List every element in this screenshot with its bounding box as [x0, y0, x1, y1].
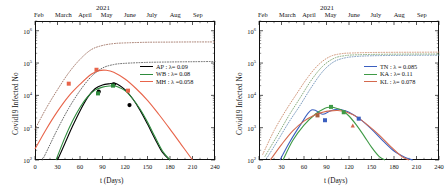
y-tick-label-1e6: 106 [233, 27, 256, 35]
x-tick-label-90: 90 [317, 163, 337, 170]
x-tick-label-60: 60 [294, 163, 314, 170]
legend-item-1: WB : λ= 0.08 [140, 71, 193, 79]
legend-item-2: KL : λ= 0.078 [364, 78, 417, 86]
legend-swatch-1 [364, 74, 377, 75]
left-panel: 2021 Covid19 Infected No t (Days) AP : λ… [0, 0, 224, 192]
month-label-feb: Feb [258, 11, 268, 18]
y-tick-label-1e2: 102 [9, 156, 32, 164]
x-tick-label-30: 30 [48, 163, 68, 170]
y-tick-label-1e5: 105 [9, 59, 32, 67]
x-tick-label-120: 120 [339, 163, 359, 170]
month-label-sep: Sep [193, 11, 203, 18]
month-label-march: March [55, 11, 72, 18]
figure-two-panel-covid-chart: 2021 Covid19 Infected No t (Days) AP : λ… [0, 0, 448, 192]
legend-label-2: MH : λ =0.058 [156, 79, 193, 85]
legend-swatch-2 [140, 81, 153, 82]
month-label-june: June [348, 11, 360, 18]
month-label-july: July [371, 11, 382, 18]
legend-swatch-0 [140, 66, 153, 67]
x-tick-label-240: 240 [205, 163, 225, 170]
y-tick-label-1e4: 104 [233, 91, 256, 99]
y-tick-label-1e3: 103 [9, 124, 32, 132]
left-legend: AP : λ= 0.09WB : λ= 0.08MH : λ =0.058 [140, 63, 193, 86]
x-tick-label-210: 210 [183, 163, 203, 170]
legend-item-1: KA : λ= 0.11 [364, 71, 417, 79]
x-tick-label-60: 60 [70, 163, 90, 170]
month-label-june: June [124, 11, 136, 18]
x-tick-label-90: 90 [93, 163, 113, 170]
month-label-sep: Sep [417, 11, 427, 18]
legend-item-2: MH : λ =0.058 [140, 78, 193, 86]
month-label-july: July [147, 11, 158, 18]
x-tick-label-30: 30 [272, 163, 292, 170]
legend-swatch-1 [140, 74, 153, 75]
month-label-april: April [78, 11, 92, 18]
x-tick-label-150: 150 [362, 163, 382, 170]
legend-label-1: KA : λ= 0.11 [380, 71, 413, 77]
x-tick-label-240: 240 [429, 163, 448, 170]
y-tick-label-1e6: 106 [9, 27, 32, 35]
month-label-aug: Aug [394, 11, 405, 18]
month-label-april: April [302, 11, 316, 18]
legend-label-2: KL : λ= 0.078 [380, 79, 415, 85]
legend-swatch-0 [364, 66, 377, 67]
y-tick-label-1e4: 104 [9, 91, 32, 99]
month-label-may: May [101, 11, 113, 18]
x-tick-label-150: 150 [138, 163, 158, 170]
x-tick-label-180: 180 [384, 163, 404, 170]
y-tick-label-1e2: 102 [233, 156, 256, 164]
legend-label-0: TN : λ = 0.085 [380, 64, 417, 70]
month-label-feb: Feb [34, 11, 44, 18]
x-tick-label-210: 210 [407, 163, 427, 170]
y-tick-label-1e3: 103 [233, 124, 256, 132]
legend-label-0: AP : λ= 0.09 [156, 64, 188, 70]
x-tick-label-180: 180 [160, 163, 180, 170]
legend-label-1: WB : λ= 0.08 [156, 71, 190, 77]
right-legend: TN : λ = 0.085KA : λ= 0.11KL : λ= 0.078 [364, 63, 417, 86]
month-label-may: May [325, 11, 337, 18]
right-panel: 2021 Covid19 Infected No t (Days) TN : λ… [224, 0, 448, 192]
month-label-march: March [279, 11, 296, 18]
y-tick-label-1e5: 105 [233, 59, 256, 67]
legend-swatch-2 [364, 81, 377, 82]
x-tick-label-120: 120 [115, 163, 135, 170]
month-label-aug: Aug [170, 11, 181, 18]
